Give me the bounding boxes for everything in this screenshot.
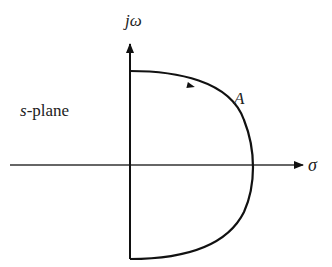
jw-axis-label: jω: [123, 11, 142, 30]
sigma-axis-label: σ: [308, 155, 318, 175]
contour-label-a: A: [233, 89, 245, 108]
s-plane-label: s-plane: [20, 101, 69, 120]
s-plane-diagram: jω s-plane A σ: [0, 0, 332, 267]
contour-direction-arrow-icon: [186, 82, 195, 90]
